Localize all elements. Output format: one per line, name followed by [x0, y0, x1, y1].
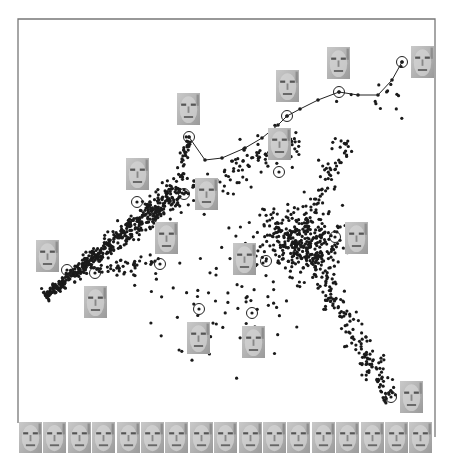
data-point [321, 164, 324, 167]
data-point [310, 208, 313, 211]
data-point [176, 316, 179, 319]
data-point [172, 201, 175, 204]
data-point [130, 270, 133, 273]
data-point [278, 314, 281, 317]
data-point [144, 262, 147, 265]
data-point [245, 322, 248, 325]
strip-frame [43, 422, 66, 453]
data-point [191, 186, 194, 189]
data-point [334, 137, 337, 140]
data-point [337, 260, 340, 263]
data-point [158, 262, 161, 265]
data-point [347, 145, 350, 148]
strip-frame [214, 422, 237, 453]
data-point [73, 275, 76, 278]
data-point [105, 252, 108, 255]
data-point [116, 241, 119, 244]
data-point [252, 235, 255, 238]
data-point [340, 327, 343, 330]
data-point [203, 213, 206, 216]
data-point [375, 378, 378, 381]
data-point [328, 289, 331, 292]
data-point [256, 134, 259, 137]
data-point [305, 263, 308, 266]
data-point [287, 237, 290, 240]
data-point [342, 315, 345, 318]
data-point [295, 150, 298, 153]
data-point [234, 235, 237, 238]
data-point [258, 149, 261, 152]
data-point [341, 204, 344, 207]
data-point [340, 139, 343, 142]
data-point [333, 265, 336, 268]
data-point [115, 236, 118, 239]
strip-frame [409, 422, 432, 453]
data-point [107, 270, 110, 273]
data-point [241, 168, 244, 171]
data-point [265, 240, 268, 243]
data-point [348, 320, 351, 323]
data-point [115, 274, 118, 277]
data-point [125, 230, 128, 233]
data-point [161, 196, 164, 199]
strip-frame [385, 422, 408, 453]
data-point [109, 267, 112, 270]
data-point [103, 242, 106, 245]
data-point [108, 241, 111, 244]
data-point [293, 147, 296, 150]
data-point [297, 153, 300, 156]
data-point [351, 335, 354, 338]
data-point [149, 208, 152, 211]
data-point [104, 247, 107, 250]
data-point [171, 208, 174, 211]
data-point [269, 213, 272, 216]
data-point [350, 342, 353, 345]
data-point [382, 354, 385, 357]
data-point [172, 177, 175, 180]
data-point [302, 266, 305, 269]
data-point [360, 331, 363, 334]
data-point [322, 308, 325, 311]
data-point [314, 273, 317, 276]
data-point [292, 254, 295, 257]
data-point [335, 297, 338, 300]
data-point [293, 206, 296, 209]
data-point [324, 178, 327, 181]
data-point [149, 321, 152, 324]
data-point [300, 257, 303, 260]
data-point [337, 305, 340, 308]
data-point [149, 227, 152, 230]
data-point [280, 229, 283, 232]
data-point [214, 299, 217, 302]
data-point [137, 238, 140, 241]
data-point [291, 166, 294, 169]
data-point [295, 228, 298, 231]
data-point [317, 189, 320, 192]
data-point [272, 280, 275, 283]
data-point [47, 293, 50, 296]
data-point [306, 221, 309, 224]
data-point [329, 293, 332, 296]
data-point [309, 216, 312, 219]
data-point [111, 230, 114, 233]
data-point [392, 386, 395, 389]
data-point [327, 177, 330, 180]
data-point [332, 259, 335, 262]
data-point [91, 251, 94, 254]
data-point [267, 304, 270, 307]
data-point [298, 140, 301, 143]
face-thumbnail [195, 178, 218, 210]
data-point [150, 290, 153, 293]
data-point [307, 237, 310, 240]
data-point [320, 264, 323, 267]
data-point [333, 235, 336, 238]
data-point [275, 306, 278, 309]
data-point [264, 158, 267, 161]
data-point [317, 262, 320, 265]
strip-frame [92, 422, 115, 453]
data-point [176, 166, 179, 169]
data-point [228, 257, 231, 260]
data-point [256, 249, 259, 252]
data-point [286, 216, 289, 219]
data-point [120, 228, 123, 231]
